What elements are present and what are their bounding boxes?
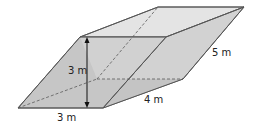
label-height: 3 m: [68, 65, 87, 76]
label-base-width: 3 m: [57, 112, 76, 123]
parallelepiped-diagram: 3 m 3 m 4 m 5 m: [0, 0, 257, 127]
label-depth: 4 m: [144, 94, 163, 105]
label-slant-edge: 5 m: [212, 47, 231, 58]
